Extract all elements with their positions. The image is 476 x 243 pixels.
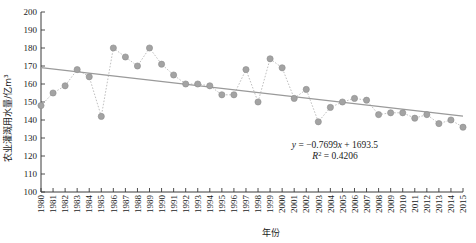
x-tick-label: 2011 — [410, 195, 420, 213]
agricultural-irrigation-water-chart: 100110120130140150160170180190200 198019… — [0, 0, 476, 243]
data-point-marker — [62, 83, 68, 89]
data-point-marker — [134, 63, 140, 69]
data-point-marker — [110, 45, 116, 51]
x-tick-label: 1987 — [121, 195, 131, 214]
x-tick-label: 2002 — [301, 195, 311, 213]
x-tick-label: 2009 — [386, 195, 396, 214]
x-tick-label: 1990 — [157, 195, 167, 214]
x-tick-label: 2010 — [398, 195, 408, 214]
data-point-marker — [146, 45, 152, 51]
data-point-marker — [303, 86, 309, 92]
data-point-marker — [291, 95, 297, 101]
data-point-marker — [122, 54, 128, 60]
y-axis-label: 农业灌溉用水量/亿m³ — [2, 74, 13, 162]
data-point-marker — [255, 99, 261, 105]
x-tick-label: 1989 — [145, 195, 155, 214]
data-point-marker — [279, 65, 285, 71]
x-tick-label: 2015 — [458, 195, 468, 214]
data-point-marker — [243, 67, 249, 73]
data-point-marker — [460, 124, 466, 130]
data-point-marker — [388, 110, 394, 116]
y-tick-label: 200 — [24, 7, 38, 17]
data-point-marker — [448, 117, 454, 123]
x-tick-label: 1980 — [36, 195, 46, 214]
x-tick-label: 1994 — [205, 195, 215, 214]
y-tick-label: 120 — [24, 151, 38, 161]
data-point-marker — [315, 119, 321, 125]
x-tick-label: 2007 — [362, 195, 372, 214]
x-tick-label: 1982 — [60, 195, 70, 213]
data-point-marker — [86, 74, 92, 80]
data-point-marker — [171, 72, 177, 78]
x-tick-label: 2012 — [422, 195, 432, 213]
trend-line — [41, 68, 463, 117]
x-tick-label: 1986 — [109, 195, 119, 214]
data-point-marker — [267, 56, 273, 62]
data-point-marker — [38, 103, 44, 109]
x-tick-label: 2006 — [350, 195, 360, 214]
y-tick-label: 110 — [24, 169, 38, 179]
x-tick-label: 2005 — [338, 195, 348, 214]
data-point-marker — [400, 110, 406, 116]
data-point-marker — [50, 90, 56, 96]
x-tick-label: 1983 — [72, 195, 82, 214]
y-tick-label: 190 — [24, 25, 38, 35]
x-tick-label: 2014 — [446, 195, 456, 214]
y-tick-label: 170 — [24, 61, 38, 71]
x-tick-label: 1998 — [253, 195, 263, 214]
trend-equation-annotation: y = −0.7699x + 1693.5 — [291, 140, 379, 150]
y-tick-label: 130 — [24, 133, 38, 143]
x-tick-label: 2008 — [374, 195, 384, 214]
x-tick-label: 1984 — [84, 195, 94, 214]
x-tick-label: 1996 — [229, 195, 239, 214]
x-tick-label: 2000 — [277, 195, 287, 214]
chart-figure: 100110120130140150160170180190200 198019… — [0, 0, 476, 243]
x-tick-label: 1993 — [193, 195, 203, 214]
y-tick-label: 150 — [24, 97, 38, 107]
x-axis-label: 年份 — [262, 227, 280, 238]
x-tick-label: 1991 — [169, 195, 179, 213]
data-point-marker — [363, 97, 369, 103]
data-point-marker — [231, 92, 237, 98]
x-tick-label: 1992 — [181, 195, 191, 213]
data-point-marker — [424, 112, 430, 118]
data-point-marker — [195, 81, 201, 87]
y-tick-label: 140 — [24, 115, 38, 125]
data-point-marker — [376, 112, 382, 118]
x-tick-label: 1997 — [241, 195, 251, 214]
x-tick-label: 2013 — [434, 195, 444, 214]
data-point-marker — [74, 67, 80, 73]
data-point-marker — [98, 113, 104, 119]
x-tick-label: 2004 — [326, 195, 336, 214]
x-tick-label: 1985 — [96, 195, 106, 214]
data-point-marker — [412, 115, 418, 121]
data-point-marker — [351, 95, 357, 101]
data-point-marker — [158, 61, 164, 67]
y-tick-label: 160 — [24, 79, 38, 89]
x-tick-label: 1988 — [133, 195, 143, 214]
axis-frame — [41, 12, 463, 192]
y-axis-tick-labels: 100110120130140150160170180190200 — [24, 7, 46, 197]
r-squared-annotation: R2 = 0.4206 — [311, 150, 358, 162]
x-tick-label: 2003 — [314, 195, 324, 214]
x-tick-label: 1999 — [265, 195, 275, 214]
data-point-markers — [38, 45, 466, 130]
data-point-marker — [327, 104, 333, 110]
data-point-marker — [436, 121, 442, 127]
x-tick-label: 1981 — [48, 195, 58, 213]
data-point-marker — [339, 99, 345, 105]
data-point-marker — [207, 83, 213, 89]
y-tick-label: 180 — [24, 43, 38, 53]
data-point-marker — [183, 81, 189, 87]
data-point-marker — [219, 92, 225, 98]
x-tick-label: 2001 — [289, 195, 299, 213]
x-tick-label: 1995 — [217, 195, 227, 214]
